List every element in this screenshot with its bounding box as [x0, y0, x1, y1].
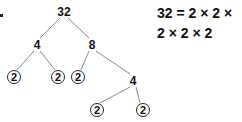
prime-leaf: 2 [51, 70, 65, 84]
tree-node-4: 4 [34, 39, 41, 51]
prime-leaf: 2 [136, 103, 150, 117]
tree-root: 32 [57, 6, 70, 18]
tree-node-8: 8 [89, 39, 96, 51]
equation-line-1: 32 = 2 × 2 × [157, 6, 232, 20]
prime-leaf: 2 [90, 103, 104, 117]
equation-line-2: 2 × 2 × 2 [157, 26, 212, 40]
prime-leaf: 2 [71, 70, 85, 84]
prime-leaf: 2 [7, 70, 21, 84]
tree-node-inner-4: 4 [130, 75, 137, 87]
